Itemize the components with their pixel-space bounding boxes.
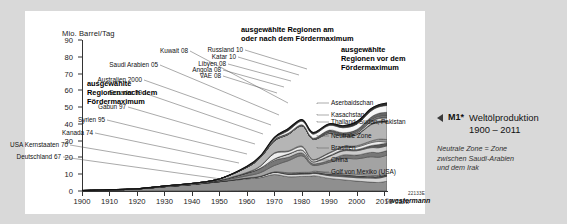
caption-note-line3: und dem Irak <box>437 163 563 173</box>
group-heading-pre-peak: ausgewählte Regionen vor dem Fördermaxim… <box>341 45 405 73</box>
callout-label: Gabun 97 <box>98 103 126 110</box>
triangle-pointer-icon <box>437 114 443 122</box>
x-axis-line <box>82 191 388 192</box>
caption-title-line1: Weltölproduktion <box>469 112 539 124</box>
callout-label: Neutrale Zone <box>331 132 372 139</box>
x-tick-mark <box>274 192 275 196</box>
caption-note: Neutrale Zone = Zone zwischen Saudi-Arab… <box>437 144 563 173</box>
y-tick-label: 90 <box>65 36 73 45</box>
y-tick-label: 0 <box>69 187 73 196</box>
x-tick-mark <box>302 192 303 196</box>
x-tick-mark <box>164 192 165 196</box>
caption-note-line1: Neutrale Zone = Zone <box>437 144 563 154</box>
y-tick-label: 60 <box>65 86 73 95</box>
caption-marker: M1* <box>448 112 464 122</box>
y-tick-label: 50 <box>65 103 73 112</box>
x-tick-mark <box>219 192 220 196</box>
y-tick-label: 80 <box>65 52 73 61</box>
x-tick-mark <box>357 192 358 196</box>
publisher-name: westermann <box>389 197 430 204</box>
callout-label: Katar 10 <box>212 53 236 60</box>
figure-code: 22133E <box>408 191 425 196</box>
callout-label: Syrien 95 <box>78 116 105 123</box>
x-tick-mark <box>192 192 193 196</box>
x-tick-label: 1910 <box>101 197 118 206</box>
callout-label: Aserbaidschan <box>331 99 373 106</box>
callout-label: China <box>331 156 348 163</box>
callout-label: Thailand, Sudan, Pakistan <box>331 118 406 125</box>
caption-title-line2: 1900 – 2011 <box>469 124 539 136</box>
x-tick-label: 1970 <box>266 197 283 206</box>
x-tick-mark <box>247 192 248 196</box>
y-tick-label: 20 <box>65 153 73 162</box>
callout-label: Russland 10 <box>207 46 243 53</box>
x-tick-mark <box>384 192 385 196</box>
x-tick-label: 1940 <box>183 197 200 206</box>
chart-panel: Mio. Barrel/Tag 0102030405060708090 1900… <box>25 11 425 214</box>
x-tick-label: 1980 <box>293 197 310 206</box>
x-tick-mark <box>137 192 138 196</box>
x-tick-label: 1900 <box>74 197 91 206</box>
x-tick-mark <box>329 192 330 196</box>
x-tick-label: 1950 <box>211 197 228 206</box>
callout-label: Kuwait 08 <box>160 47 188 54</box>
callout-label: Saudi Arabien 05 <box>109 61 158 68</box>
y-tick-label: 10 <box>65 170 73 179</box>
callout-label: Australien 2000 <box>98 76 142 83</box>
callout-label: Brasilien <box>331 144 356 151</box>
caption-note-line2: zwischen Saudi-Arabien <box>437 154 563 164</box>
x-tick-mark <box>109 192 110 196</box>
group-heading-at-or-post-peak: ausgewählte Regionen am oder nach dem Fö… <box>241 25 354 43</box>
publisher-credit: ©westermann <box>385 197 430 204</box>
y-tick-label: 70 <box>65 69 73 78</box>
callout-label: Deutschland 67 <box>17 153 61 160</box>
caption-title: Weltölproduktion 1900 – 2011 <box>469 112 539 135</box>
x-tick-label: 1920 <box>129 197 146 206</box>
y-tick-label: 40 <box>65 119 73 128</box>
callout-label: Kanada 74 <box>62 129 93 136</box>
callout-label: USA Kernstaaten 70 <box>10 141 68 148</box>
y-axis: 0102030405060708090 <box>25 11 82 191</box>
x-tick-label: 1930 <box>156 197 173 206</box>
caption-block: M1* Weltölproduktion 1900 – 2011 Neutral… <box>437 112 563 173</box>
x-tick-label: 1990 <box>321 197 338 206</box>
callout-label: Libyen 08 <box>198 60 226 67</box>
x-tick-label: 2000 <box>348 197 365 206</box>
figure-root: Mio. Barrel/Tag 0102030405060708090 1900… <box>0 0 567 224</box>
x-tick-mark <box>82 192 83 196</box>
x-tick-label: 1960 <box>238 197 255 206</box>
callout-label: Ecuador 99 <box>109 89 142 96</box>
callout-label: Golf von Mexiko (USA) <box>331 168 396 175</box>
